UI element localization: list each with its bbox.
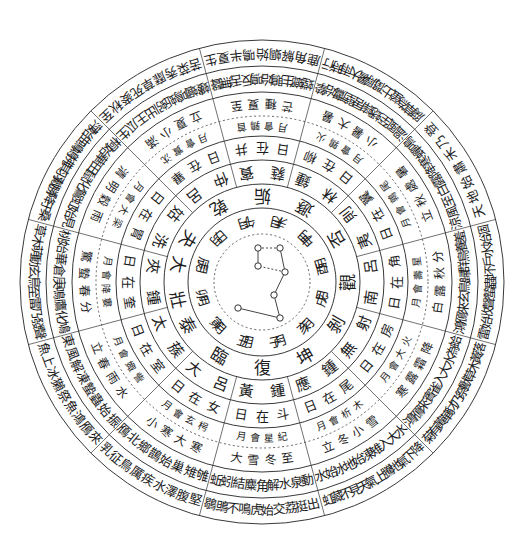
ring-glyph: 夏 (172, 115, 189, 133)
ring-glyph: 房 (378, 322, 397, 340)
ring-glyph: 日 (121, 254, 138, 269)
ring-glyph: 天 (470, 203, 488, 220)
ring-glyph: 在 (256, 409, 269, 424)
ring-glyph: 秋 (411, 192, 429, 209)
ring-glyph: 日 (168, 377, 188, 397)
star-icon (277, 245, 283, 251)
ring-glyph: 會 (183, 136, 197, 151)
ring-glyph: 月 (159, 398, 174, 413)
ring-glyph: 日 (302, 398, 320, 417)
ring-glyph: 露 (433, 284, 448, 297)
ring-glyph: 觀 (338, 274, 358, 291)
ring-glyph: 小 (363, 133, 381, 151)
ring-glyph: 在 (320, 156, 339, 175)
ring-glyph: 木 (350, 398, 365, 413)
sector-divider (28, 219, 167, 256)
ring-glyph: 冬 (335, 430, 353, 449)
ring-glyph: 夷 (353, 231, 375, 252)
ring-glyph: 會 (116, 346, 131, 360)
ring-glyph: 始 (256, 47, 269, 62)
ring-glyph: 水 (113, 383, 131, 401)
ring-glyph: 春 (77, 284, 92, 297)
ring-boundary (164, 184, 360, 380)
ring-glyph: 娵 (123, 358, 138, 373)
star-icon (235, 305, 241, 311)
ring-glyph: 呂 (361, 258, 381, 275)
ring-glyph: 雪 (247, 453, 260, 468)
star-icon (282, 269, 288, 275)
ring-glyph: 鶉 (385, 191, 400, 206)
ring-glyph: 暑 (393, 163, 411, 181)
ring-glyph: 星 (410, 255, 422, 266)
ring-glyph: 柳 (302, 148, 320, 167)
sector-divider (199, 377, 236, 516)
ring-glyph: 暑 (349, 123, 367, 141)
ring-glyph: 日 (275, 141, 290, 158)
ring-glyph: 鍾 (292, 169, 313, 191)
ring-glyph: 應 (292, 373, 313, 395)
ring-glyph: 立 (320, 438, 337, 456)
ring-glyph: 月 (314, 419, 327, 433)
big-dipper-icon (235, 245, 288, 321)
ring-glyph: 日 (357, 356, 377, 376)
ring-glyph: 呂 (183, 184, 206, 207)
ring-glyph: 月 (378, 370, 393, 385)
ring-glyph: 梁 (111, 216, 126, 230)
ring-glyph: 在 (186, 156, 205, 175)
ring-glyph: 呂 (211, 373, 232, 395)
ring-glyph: 雨 (88, 207, 105, 223)
ring-glyph: 月 (350, 151, 365, 166)
ring-glyph: 分 (78, 300, 94, 314)
ring-glyph: 玄 (183, 412, 197, 427)
sector-divider (287, 48, 324, 187)
ring-glyph: 小 (157, 123, 175, 141)
ring-glyph: 明 (103, 177, 121, 195)
ring-glyph: 堅 (187, 491, 204, 509)
ring-glyph: 夏 (247, 97, 260, 112)
ring-glyph: 至 (280, 450, 294, 466)
ring-glyph: 南 (361, 289, 381, 306)
ring-glyph: 月 (101, 255, 113, 266)
ring-glyph: 霜 (411, 355, 429, 372)
ring-glyph: 黃 (238, 381, 255, 401)
ring-glyph: 鍾 (269, 381, 286, 401)
ring-glyph: 月 (399, 216, 413, 229)
ring-glyph: 在 (136, 340, 155, 359)
ring-glyph: 大 (230, 450, 244, 466)
ring-glyph: 在 (389, 276, 404, 289)
ring-glyph: 在 (368, 206, 387, 225)
ring-glyph: 尾 (378, 179, 393, 194)
ring-glyph: 壽 (411, 270, 423, 281)
sector-divider (357, 219, 496, 256)
ring-glyph: 在 (186, 388, 205, 407)
ring-glyph: 紀 (277, 429, 289, 442)
ring-glyph: 大 (172, 431, 189, 449)
ring-glyph: 月 (235, 430, 246, 442)
ring-glyph: 在 (136, 206, 155, 225)
ring-glyph: 則 (337, 203, 360, 226)
ring-glyph: 行 (320, 55, 337, 73)
ring-glyph: 蔟 (164, 339, 187, 362)
ring-glyph: 在 (121, 276, 136, 289)
ring-glyph: 火 (399, 334, 413, 347)
ring-glyph: 在 (256, 141, 269, 156)
ring-glyph: 涸 (475, 223, 493, 239)
ring-glyph: 月 (410, 297, 422, 308)
ring-hexagrams: 復臨泰大壯夬乾姤遯否觀剝坤 (166, 186, 358, 378)
ring-glyph: 降 (100, 284, 112, 295)
ring-glyph: 日 (378, 225, 397, 243)
ring-glyph: 大 (392, 346, 407, 360)
ring-glyph: 沈 (159, 151, 174, 167)
ring-glyph: 會 (411, 284, 423, 295)
ring-glyph: 日 (148, 188, 168, 208)
ring-glyph: 斗 (275, 406, 290, 423)
ring-glyph: 清 (113, 163, 131, 181)
ring-glyph: 奎 (121, 295, 138, 310)
ring-glyph: 大 (116, 203, 131, 217)
ring-glyph: 星 (264, 432, 274, 443)
ring-glyph: 女 (205, 398, 223, 417)
ring-glyph: 仲 (211, 169, 232, 191)
ring-glyph: 冬 (264, 452, 277, 468)
ring-glyph: 雪 (363, 413, 381, 431)
ring-glyph: 雨 (103, 369, 121, 387)
